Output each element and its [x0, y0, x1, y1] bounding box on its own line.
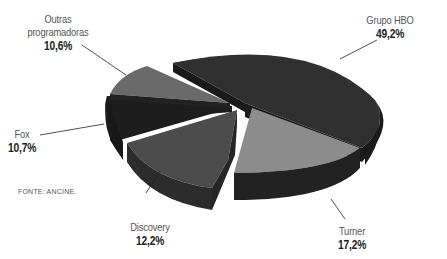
label-value: 12,2%	[120, 234, 180, 249]
label-outras-programadoras: Outras programadoras 10,6%	[24, 13, 92, 54]
label-name: Fox	[5, 128, 39, 141]
label-name-line2: programadoras	[24, 26, 92, 39]
label-value: 10,6%	[24, 39, 92, 54]
leader-line-turner	[331, 199, 345, 219]
leader-line-fox	[40, 124, 104, 135]
label-name: Discovery	[120, 221, 180, 234]
label-name-line1: Outras	[24, 13, 92, 26]
label-value: 10,7%	[5, 141, 39, 156]
label-name: Turner	[322, 225, 382, 238]
label-fox: Fox 10,7%	[5, 128, 39, 156]
label-value: 17,2%	[322, 238, 382, 253]
source-note: FONTE: ANCINE.	[18, 188, 76, 195]
label-value: 49,2%	[356, 27, 424, 42]
label-name: Grupo HBO	[356, 14, 424, 27]
label-grupo-hbo: Grupo HBO 49,2%	[356, 14, 424, 42]
leader-line-hbo	[340, 40, 377, 59]
label-turner: Turner 17,2%	[322, 225, 382, 253]
label-discovery: Discovery 12,2%	[120, 221, 180, 249]
